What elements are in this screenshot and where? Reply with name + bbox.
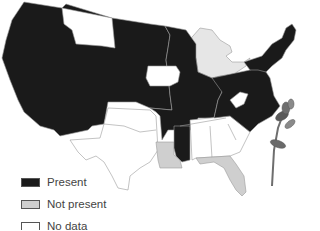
legend: Present Not present No data [21, 171, 106, 230]
region-northeast [244, 24, 296, 72]
no-data-swatch [21, 222, 40, 231]
region-mississippi [174, 126, 190, 162]
not-present-swatch [21, 200, 40, 209]
legend-label: Not present [47, 198, 106, 210]
legend-item-present: Present [21, 171, 106, 193]
present-swatch [21, 178, 40, 187]
region-florida [196, 156, 246, 196]
legend-label: No data [47, 220, 87, 230]
legend-item-not-present: Not present [21, 193, 106, 215]
legend-label: Present [47, 176, 87, 188]
region-iowa [146, 66, 180, 86]
legend-item-no-data: No data [21, 215, 106, 230]
